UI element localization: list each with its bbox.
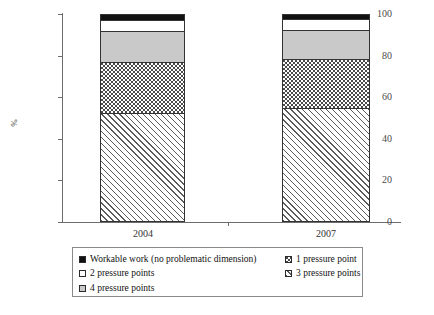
segment-2004-4-pressure-points[interactable]: [100, 31, 185, 62]
y-tick-40: [58, 139, 63, 140]
y-tick-100: [58, 14, 63, 15]
y-tick-0: [58, 222, 63, 223]
legend-swatch-gray-icon: [79, 285, 86, 292]
legend-swatch-hatched-icon: [285, 270, 292, 277]
y-axis-title: %: [9, 119, 19, 127]
bar-group-2007[interactable]: [282, 14, 370, 222]
segment-2004-3-pressure-points[interactable]: [100, 113, 185, 222]
legend-label-4-pressure-points: 4 pressure points: [90, 283, 154, 294]
y-tick-label-40: 40: [382, 134, 392, 144]
legend-label-1-pressure-point: 1 pressure point: [296, 254, 357, 265]
segment-2004-workable-work[interactable]: [100, 14, 185, 20]
plot-area: 100 80 60 40 20 0: [63, 14, 400, 222]
legend-item-2-pressure-points[interactable]: 2 pressure points: [79, 267, 257, 282]
y-tick-80: [58, 56, 63, 57]
segment-2007-2-pressure-points[interactable]: [282, 19, 370, 30]
legend-label-workable-work: Workable work (no problematic dimension): [90, 254, 257, 265]
legend-item-3-pressure-points[interactable]: 3 pressure points: [285, 267, 360, 282]
legend-column-right: 1 pressure point 3 pressure points: [285, 252, 360, 281]
x-tick-mid: [228, 222, 229, 226]
y-tick-label-0: 0: [387, 217, 392, 227]
legend-label-2-pressure-points: 2 pressure points: [90, 268, 154, 279]
y-tick-60: [58, 97, 63, 98]
legend-label-3-pressure-points: 3 pressure points: [296, 268, 360, 279]
legend-item-workable-work[interactable]: Workable work (no problematic dimension): [79, 252, 257, 267]
legend-item-1-pressure-point[interactable]: 1 pressure point: [285, 252, 360, 267]
segment-2004-2-pressure-points[interactable]: [100, 20, 185, 31]
legend-swatch-dotted-icon: [285, 256, 292, 263]
y-tick-label-60: 60: [382, 92, 392, 102]
stacked-bar-chart: % 100 80 60 40 20 0 2004: [0, 0, 434, 315]
legend: Workable work (no problematic dimension)…: [72, 247, 363, 297]
y-tick-label-20: 20: [382, 175, 392, 185]
legend-swatch-solid-black-icon: [79, 256, 86, 263]
x-tick-label-2004: 2004: [133, 228, 153, 239]
legend-item-4-pressure-points[interactable]: 4 pressure points: [79, 281, 257, 296]
x-axis-line: [62, 222, 401, 223]
x-tick-label-2007: 2007: [316, 228, 336, 239]
legend-swatch-white-icon: [79, 270, 86, 277]
bar-group-2004[interactable]: [100, 14, 185, 222]
y-tick-label-100: 100: [377, 9, 392, 19]
legend-column-left: Workable work (no problematic dimension)…: [79, 252, 257, 296]
segment-2007-3-pressure-points[interactable]: [282, 108, 370, 222]
segment-2004-1-pressure-point[interactable]: [100, 62, 185, 113]
segment-2007-4-pressure-points[interactable]: [282, 30, 370, 59]
y-tick-label-80: 80: [382, 51, 392, 61]
segment-2007-1-pressure-point[interactable]: [282, 59, 370, 108]
y-tick-20: [58, 180, 63, 181]
segment-2007-workable-work[interactable]: [282, 14, 370, 19]
